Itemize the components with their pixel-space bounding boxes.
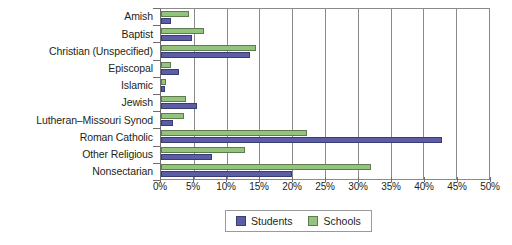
bar-row <box>161 43 489 60</box>
x-axis: 0%5%10%15%20%25%30%35%40%45%50% <box>160 182 490 198</box>
x-axis-tick-label: 15% <box>249 182 268 192</box>
x-axis-tick-label: 20% <box>282 182 301 192</box>
y-axis-tick <box>153 146 160 147</box>
bar-row <box>161 145 489 162</box>
bar-schools <box>161 147 245 153</box>
y-axis-tick <box>153 94 160 95</box>
legend-label-schools: Schools <box>323 216 360 227</box>
bar-students <box>161 52 250 58</box>
bar-row <box>161 94 489 111</box>
chart-legend: Students Schools <box>225 210 372 232</box>
x-axis-tick-label: 40% <box>414 182 433 192</box>
y-axis-label-amish: Amish <box>0 8 157 25</box>
bar-students <box>161 137 442 143</box>
x-axis-tick-label: 35% <box>381 182 400 192</box>
bar-chart: Amish Baptist Christian (Unspecified) Ep… <box>0 0 512 245</box>
y-axis-label-other-religious: Other Religious <box>0 146 157 163</box>
bar-schools <box>161 45 256 51</box>
x-axis-tick-label: 30% <box>348 182 367 192</box>
legend-item-schools: Schools <box>308 216 360 227</box>
bar-row <box>161 60 489 77</box>
bar-students <box>161 154 212 160</box>
bar-row <box>161 111 489 128</box>
bar-row <box>161 26 489 43</box>
bar-students <box>161 18 171 24</box>
bar-schools <box>161 96 186 102</box>
bar-students <box>161 120 173 126</box>
legend-swatch-schools-icon <box>308 216 318 226</box>
bar-schools <box>161 130 307 136</box>
y-axis-tick <box>153 111 160 112</box>
bar-row <box>161 128 489 145</box>
y-axis-label-baptist: Baptist <box>0 25 157 42</box>
bar-students <box>161 86 165 92</box>
plot-area <box>160 8 490 180</box>
y-axis-category-labels: Amish Baptist Christian (Unspecified) Ep… <box>0 8 157 180</box>
y-axis-tick <box>153 25 160 26</box>
x-axis-tick-label: 45% <box>447 182 466 192</box>
y-axis-label-lutheran-missouri-synod: Lutheran–Missouri Synod <box>0 111 157 128</box>
bar-schools <box>161 11 189 17</box>
y-axis-label-islamic: Islamic <box>0 77 157 94</box>
y-axis-label-christian-unspecified: Christian (Unspecified) <box>0 42 157 59</box>
y-axis-tick-marks <box>153 8 160 180</box>
bar-students <box>161 103 197 109</box>
y-axis-tick <box>153 60 160 61</box>
bar-schools <box>161 113 184 119</box>
x-axis-tick-label: 50% <box>480 182 499 192</box>
x-axis-tick-label: 25% <box>315 182 334 192</box>
bar-row <box>161 9 489 26</box>
y-axis-label-nonsectarian: Nonsectarian <box>0 163 157 180</box>
bar-schools <box>161 164 371 170</box>
bar-schools <box>161 79 166 85</box>
bar-students <box>161 69 179 75</box>
legend-item-students: Students <box>236 216 292 227</box>
y-axis-label-jewish: Jewish <box>0 94 157 111</box>
bar-students <box>161 35 192 41</box>
y-axis-tick <box>153 128 160 129</box>
x-axis-tick-label: 5% <box>186 182 200 192</box>
y-axis-tick <box>153 77 160 78</box>
legend-label-students: Students <box>251 216 292 227</box>
bar-schools <box>161 28 204 34</box>
y-axis-tick <box>153 42 160 43</box>
bar-schools <box>161 62 171 68</box>
legend-swatch-students-icon <box>236 216 246 226</box>
y-axis-tick <box>153 163 160 164</box>
x-axis-tick-label: 10% <box>216 182 235 192</box>
y-axis-label-roman-catholic: Roman Catholic <box>0 128 157 145</box>
y-axis-tick <box>153 8 160 9</box>
y-axis-label-episcopal: Episcopal <box>0 60 157 77</box>
bar-rows <box>161 9 489 179</box>
bar-row <box>161 77 489 94</box>
x-axis-tick-label: 0% <box>153 182 167 192</box>
